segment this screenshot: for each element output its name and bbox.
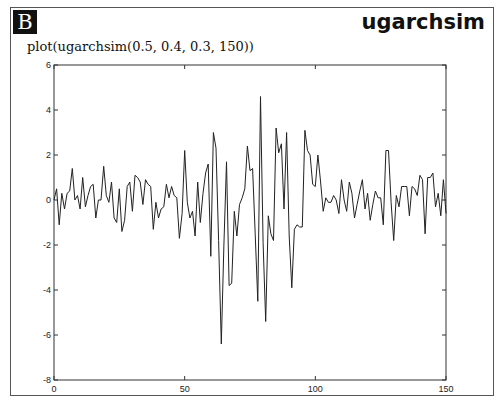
chart-axes: -8-6-4-20246050100150	[43, 60, 454, 394]
y-tick-label: -2	[43, 240, 51, 250]
y-tick-label: 2	[46, 150, 51, 160]
y-tick-label: -8	[43, 375, 51, 385]
y-tick-label: -6	[43, 330, 51, 340]
plot-area-border	[54, 65, 446, 380]
y-tick-label: -4	[43, 285, 51, 295]
line-chart: -8-6-4-20246050100150	[0, 0, 503, 412]
series-line	[54, 97, 446, 345]
x-tick-label: 100	[308, 384, 323, 394]
x-tick-label: 0	[51, 384, 56, 394]
x-tick-label: 150	[438, 384, 453, 394]
y-tick-label: 6	[46, 60, 51, 70]
x-tick-label: 50	[180, 384, 190, 394]
y-tick-label: 4	[46, 105, 51, 115]
y-tick-label: 0	[46, 195, 51, 205]
